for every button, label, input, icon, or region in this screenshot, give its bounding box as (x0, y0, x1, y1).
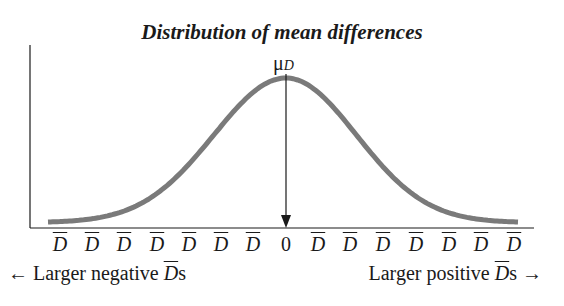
mu-symbol: μ (273, 52, 284, 74)
x-tick-d-bar: D (502, 233, 526, 256)
x-tick-d-bar: D (338, 233, 362, 256)
x-tick-d-bar: D (306, 233, 330, 256)
x-tick-d-bar: D (48, 233, 72, 256)
mean-label: μD (273, 52, 294, 75)
x-tick-d-bar: D (209, 233, 233, 256)
d-bar-symbol: D (495, 262, 509, 284)
direction-label-negative: ← Larger negative Ds (8, 262, 186, 285)
x-tick-d-bar: D (437, 233, 461, 256)
x-tick-d-bar: D (241, 233, 265, 256)
d-bar-symbol: D (164, 262, 178, 284)
mu-subscript: D (284, 58, 294, 73)
x-tick-d-bar: D (112, 233, 136, 256)
right-arrow-icon: → (522, 262, 542, 284)
normal-curve (48, 78, 518, 222)
direction-label-positive: Larger positive Ds → (368, 262, 542, 285)
x-tick-d-bar: D (371, 233, 395, 256)
x-tick-zero: 0 (274, 233, 298, 256)
x-tick-d-bar: D (80, 233, 104, 256)
x-tick-d-bar: D (404, 233, 428, 256)
x-tick-d-bar: D (469, 233, 493, 256)
x-tick-d-bar: D (177, 233, 201, 256)
left-arrow-icon: ← (8, 262, 28, 284)
figure-title: Distribution of mean differences (0, 20, 564, 45)
mean-arrowhead (281, 215, 291, 228)
distribution-figure (0, 0, 564, 306)
x-tick-d-bar: D (145, 233, 169, 256)
